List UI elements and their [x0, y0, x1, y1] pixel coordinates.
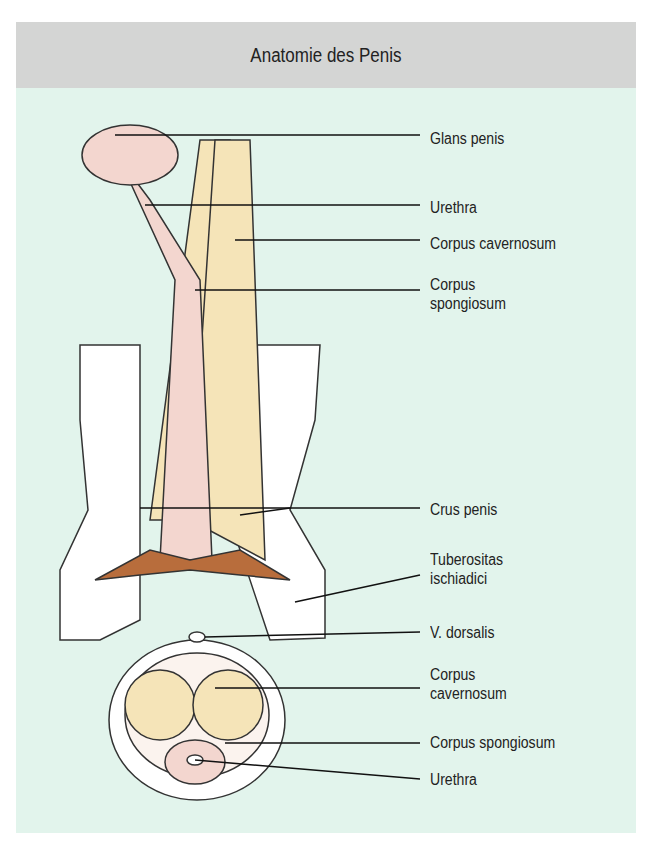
penis-anatomy-illustration	[0, 0, 660, 844]
label-corpus-cavernosum: Corpus cavernosum	[430, 234, 556, 253]
label-crus-penis: Crus penis	[430, 500, 497, 519]
label-v-dorsalis: V. dorsalis	[430, 623, 494, 642]
label-corpus-spongiosum: Corpusspongiosum	[430, 275, 506, 313]
label-glans-penis: Glans penis	[430, 129, 504, 148]
label-tuberositas: Tuberositasischiadici	[430, 550, 503, 588]
label-corpus-cavernosum-section: Corpuscavernosum	[430, 665, 507, 703]
label-urethra-section: Urethra	[430, 770, 477, 789]
label-corpus-spongiosum-section: Corpus spongiosum	[430, 733, 555, 752]
label-urethra: Urethra	[430, 198, 477, 217]
